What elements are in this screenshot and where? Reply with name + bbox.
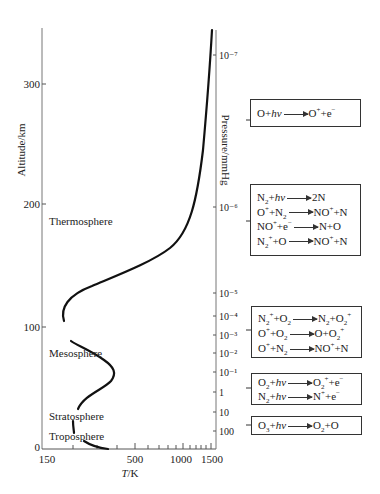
p-tick-100: 100 <box>219 426 234 437</box>
mesosphere-label: Mesosphere <box>49 347 102 359</box>
thermosphere-label: Thermosphere <box>49 215 113 227</box>
p-tick-1e-1: 10⁻¹ <box>219 367 237 378</box>
y-tick-0: 0 <box>35 441 41 453</box>
x-axis-label: T/K <box>121 467 138 479</box>
reaction-row: O3+hνO2+O <box>258 418 355 433</box>
p-tick-1e-5: 10⁻⁵ <box>219 288 238 299</box>
arrow-icon <box>294 227 318 228</box>
p-tick-1e-6: 10⁻⁶ <box>219 202 238 213</box>
reaction-row: O+hνO++e− <box>257 106 354 121</box>
temperature-curve <box>63 30 212 449</box>
reaction-box-photoionization: O2+hνO2++e− N2+hνN++e− <box>251 373 362 405</box>
reaction-box-o-photoionization: O+hνO++e− <box>250 99 361 127</box>
reaction-row: NO++e−N+O <box>257 219 354 234</box>
arrow-icon <box>290 334 314 335</box>
arrow-icon <box>289 241 313 242</box>
y-tick-100: 100 <box>24 321 41 333</box>
y-axis-label: Altitude/km <box>15 123 27 177</box>
reaction-row: N2+hν2N <box>257 190 354 205</box>
reaction-box-ion-exchange: N2++O2N2+O2+ O++O2O+O2+ O++N2NO++N <box>251 306 362 358</box>
arrow-icon <box>288 426 312 427</box>
reaction-row: O2+hνO2++e− <box>258 375 355 389</box>
reaction-row: N2++O2N2+O2+ <box>258 311 355 326</box>
reaction-box-thermosphere: N2+hν2N O++N2NO++N NO++e−N+O N2++ONO++N <box>250 184 361 256</box>
arrow-icon <box>293 319 317 320</box>
p-tick-1e-3: 10⁻³ <box>219 330 237 341</box>
altitude-ticks <box>42 84 46 327</box>
arrow-icon <box>289 212 313 213</box>
x-tick-1000: 1000 <box>170 453 193 465</box>
pressure-axis-label: Pressure/mmHg <box>220 115 232 186</box>
arrow-icon <box>290 349 314 350</box>
reaction-row: O++N2NO++N <box>257 205 354 220</box>
reaction-row: N2+hνN++e− <box>258 389 355 403</box>
arrow-icon <box>284 114 308 115</box>
x-tick-500: 500 <box>127 453 144 465</box>
p-tick-1: 1 <box>219 387 224 398</box>
p-tick-1e-4: 10⁻⁴ <box>219 311 238 322</box>
p-tick-10: 10 <box>219 407 229 418</box>
arrow-icon <box>288 383 312 384</box>
arrow-icon <box>288 397 312 398</box>
y-tick-300: 300 <box>24 78 41 90</box>
x-tick-1500: 1500 <box>201 453 224 465</box>
p-tick-1e-2: 10⁻² <box>219 348 237 359</box>
reaction-row: O++O2O+O2+ <box>258 326 355 341</box>
y-tick-200: 200 <box>24 198 41 210</box>
reaction-row: O++N2NO++N <box>258 341 355 356</box>
reaction-row: N2++ONO++N <box>257 234 354 249</box>
x-tick-150: 150 <box>39 453 56 465</box>
p-tick-1e-7: 10⁻⁷ <box>219 50 238 61</box>
arrow-icon <box>287 198 311 199</box>
stratosphere-label: Stratosphere <box>49 410 104 422</box>
reaction-box-ozone-photolysis: O3+hνO2+O <box>251 416 362 435</box>
troposphere-label: Troposphere <box>49 430 104 442</box>
